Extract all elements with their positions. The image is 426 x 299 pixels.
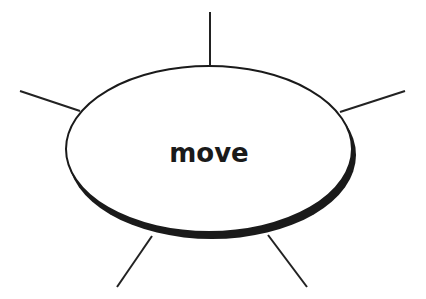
- concept-diagram: move: [0, 0, 426, 299]
- spoke-bottom-right: [268, 235, 307, 287]
- center-label: move: [169, 138, 249, 168]
- spoke-left: [20, 91, 80, 111]
- spoke-bottom-left: [117, 236, 152, 287]
- spoke-right: [340, 91, 405, 112]
